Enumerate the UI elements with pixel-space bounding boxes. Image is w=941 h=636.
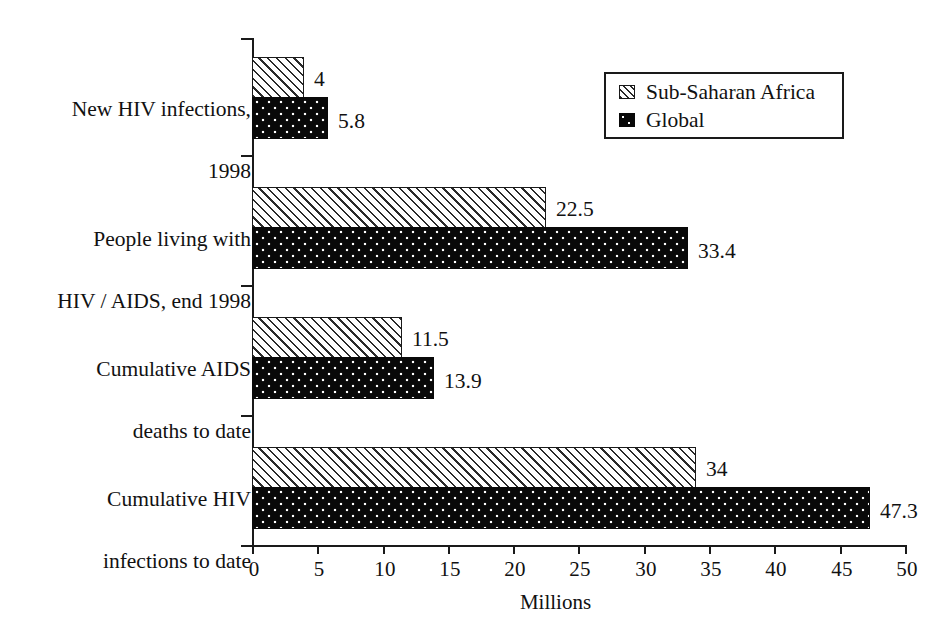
- legend-item-label: Global: [646, 108, 705, 132]
- category-label-line: People living with: [1, 224, 251, 255]
- x-axis-tick: [448, 545, 450, 554]
- x-axis-tick: [383, 545, 385, 554]
- category-label-cumulative-hiv-infections: Cumulative HIV infections to date: [1, 453, 251, 608]
- bar-sub-saharan-africa[interactable]: [252, 187, 546, 228]
- bar-value-label: 22.5: [556, 198, 594, 220]
- x-axis-tick: [644, 545, 646, 554]
- x-axis-tick-label: 30: [616, 556, 676, 582]
- x-axis-tick: [252, 545, 254, 554]
- x-axis-tick-label: 15: [420, 556, 480, 582]
- bar-value-label: 47.3: [880, 500, 918, 522]
- x-axis-tick: [709, 545, 711, 554]
- x-axis-title: Millions: [0, 590, 941, 615]
- category-label-line: HIV / AIDS, end 1998: [1, 286, 251, 317]
- x-axis-tick: [578, 545, 580, 554]
- legend-item-global[interactable]: Global: [619, 106, 705, 134]
- x-axis-tick-label: 35: [681, 556, 741, 582]
- bar-value-label: 4: [314, 68, 325, 90]
- bar-value-label: 5.8: [338, 110, 365, 132]
- x-axis-tick-label: 0: [224, 556, 284, 582]
- category-label-line: New HIV infections,: [1, 94, 251, 125]
- hatch-swatch-icon: [619, 85, 635, 99]
- bar-sub-saharan-africa[interactable]: [252, 57, 304, 98]
- category-label-line: Cumulative HIV: [1, 484, 251, 515]
- bar-sub-saharan-africa[interactable]: [252, 317, 402, 358]
- category-label-line: infections to date: [1, 546, 251, 577]
- legend-item-sub-saharan-africa[interactable]: Sub-Saharan Africa: [619, 78, 815, 106]
- category-label-line: Cumulative AIDS: [1, 354, 251, 385]
- x-axis-tick-label: 20: [485, 556, 545, 582]
- x-axis-tick-label: 10: [355, 556, 415, 582]
- dotted-swatch-icon: [619, 113, 635, 127]
- category-label-line: 1998: [1, 156, 251, 187]
- bar-global[interactable]: [252, 97, 328, 139]
- x-axis-tick-label: 50: [877, 556, 937, 582]
- bar-value-label: 11.5: [412, 328, 449, 350]
- y-axis-tick: [241, 38, 252, 40]
- x-axis-tick: [905, 545, 907, 554]
- x-axis-tick: [774, 545, 776, 554]
- x-axis-tick: [317, 545, 319, 554]
- legend-item-label: Sub-Saharan Africa: [646, 80, 815, 104]
- x-axis-tick-label: 25: [550, 556, 610, 582]
- x-axis-tick-label: 45: [812, 556, 872, 582]
- x-axis-tick-label: 40: [746, 556, 806, 582]
- x-axis-tick: [840, 545, 842, 554]
- category-label-line: deaths to date: [1, 416, 251, 447]
- bar-global[interactable]: [252, 487, 870, 529]
- bar-value-label: 33.4: [698, 240, 736, 262]
- legend: Sub-Saharan Africa Global: [604, 72, 844, 139]
- bar-chart: 4 5.8 22.5 33.4 11.5 13.9 34 47.3 New HI…: [0, 0, 941, 636]
- bar-global[interactable]: [252, 357, 434, 399]
- bar-sub-saharan-africa[interactable]: [252, 447, 696, 488]
- bar-value-label: 13.9: [444, 370, 482, 392]
- x-axis-tick: [513, 545, 515, 554]
- bar-global[interactable]: [252, 227, 688, 269]
- bar-value-label: 34: [706, 458, 728, 480]
- x-axis-tick-label: 5: [289, 556, 349, 582]
